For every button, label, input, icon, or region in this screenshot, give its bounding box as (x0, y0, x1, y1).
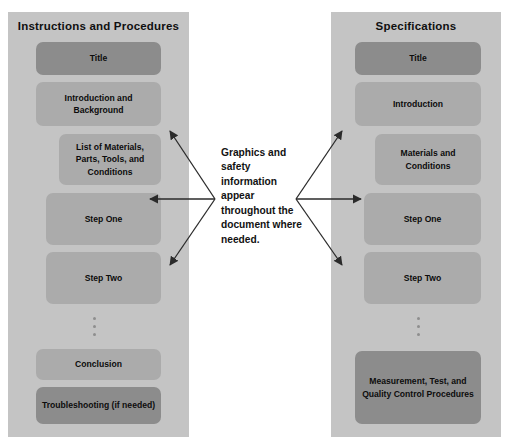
box-instructions-list-of-materials: List of Materials, Parts, Tools, and Con… (59, 134, 161, 185)
column-title-instructions: Instructions and Procedures (8, 20, 189, 32)
box-instructions-step-one: Step One (46, 193, 161, 245)
box-specifications-materials-and-conditions: Materials and Conditions (375, 134, 481, 185)
box-instructions-step-two: Step Two (46, 252, 161, 304)
diagram-root: Instructions and Procedures Title Introd… (0, 0, 509, 448)
box-instructions-title: Title (36, 42, 161, 75)
ellipsis-dot (417, 325, 420, 328)
center-caption: Graphics and safety information appear t… (221, 146, 307, 247)
ellipsis-instructions (90, 317, 98, 336)
box-specifications-step-one: Step One (364, 193, 481, 245)
box-instructions-troubleshooting: Troubleshooting (if needed) (36, 387, 161, 424)
box-instructions-conclusion: Conclusion (36, 349, 161, 380)
box-instructions-introduction-and-background: Introduction and Background (36, 82, 161, 126)
column-title-specifications: Specifications (331, 20, 501, 32)
ellipsis-dot (417, 317, 420, 320)
box-specifications-title: Title (355, 42, 481, 75)
ellipsis-dot (93, 333, 96, 336)
box-specifications-measurement-test-quality-control: Measurement, Test, and Quality Control P… (355, 351, 481, 424)
ellipsis-dot (417, 333, 420, 336)
ellipsis-dot (93, 317, 96, 320)
ellipsis-specifications (414, 317, 422, 336)
box-specifications-introduction: Introduction (355, 82, 481, 126)
column-specifications: Specifications Title Introduction Materi… (331, 12, 501, 437)
box-specifications-step-two: Step Two (364, 252, 481, 304)
column-instructions-and-procedures: Instructions and Procedures Title Introd… (8, 12, 189, 437)
ellipsis-dot (93, 325, 96, 328)
